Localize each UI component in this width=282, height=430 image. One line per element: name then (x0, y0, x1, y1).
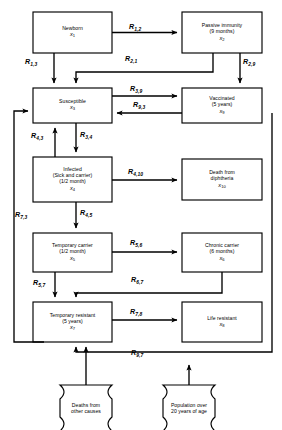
rate-label-R5_7: R5,7 (33, 279, 45, 288)
rate-label-R5_6: R5,6 (130, 239, 142, 248)
rate-label-R7_8: R7,8 (130, 308, 142, 317)
node-text-line: 20 years of age (171, 408, 207, 414)
node-variable-x5: x5 (70, 255, 75, 263)
node-variable-x6: x6 (219, 255, 224, 263)
node-variable-x7: x7 (70, 324, 75, 332)
rate-label-R6_7: R6,7 (131, 276, 143, 285)
rate-label-R2_1: R2,1 (125, 55, 137, 64)
rate-label-R1_2: R1,2 (129, 23, 141, 32)
edge-R2_1 (76, 53, 213, 83)
node-text-line: other causes (71, 408, 101, 414)
rate-label-R4_3: R4,3 (31, 132, 43, 141)
rate-label-R1_3: R1,3 (25, 58, 37, 67)
node-variable-x2: x2 (219, 35, 224, 43)
node-label-x5: Temporary carrier(1/2 month)x5 (33, 233, 112, 272)
node-label-d2: Population over20 years of age (163, 385, 215, 430)
node-variable-x3: x3 (70, 104, 75, 112)
diphtheria-state-transition-diagram (0, 0, 282, 430)
rate-label-R9_7: R9,7 (131, 349, 143, 358)
node-label-x4: Infected(Sick and carrier)(1/2 month)x4 (33, 157, 112, 202)
node-variable-x9: x9 (219, 108, 224, 116)
node-label-x6: Chronic carrier(6 months)x6 (182, 233, 262, 272)
rate-label-R7_3: R7,3 (15, 211, 27, 220)
node-label-d1: Deaths fromother causes (60, 385, 112, 430)
edge-R6_7 (76, 272, 222, 297)
rate-label-R4_5: R4,5 (80, 209, 92, 218)
rate-label-R3_9: R3,9 (130, 85, 142, 94)
node-variable-x1: x1 (70, 31, 75, 39)
node-label-x3: Susceptiblex3 (33, 88, 112, 123)
rate-label-R4_10: R4,10 (128, 168, 143, 177)
rate-label-R3_4: R3,4 (80, 131, 92, 140)
rate-label-R2_9: R2,9 (243, 58, 255, 67)
node-label-x1: Newbornx1 (33, 12, 112, 53)
node-label-x9: Vaccinated(5 years)x9 (182, 88, 262, 123)
node-label-x2: Passive immunity(9 months)x2 (182, 12, 262, 53)
node-variable-x8: x8 (219, 321, 224, 329)
node-label-x10: Death fromdiphtheriax10 (182, 159, 262, 200)
node-label-x7: Temporary resistant(5 years)x7 (33, 302, 112, 342)
node-variable-x10: x10 (218, 182, 225, 190)
node-variable-x4: x4 (70, 185, 75, 193)
rate-label-R9_3: R9,3 (133, 101, 145, 110)
node-label-x8: Life resistantx8 (182, 302, 262, 342)
